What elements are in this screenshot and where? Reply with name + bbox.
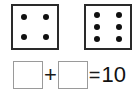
die-pip (43, 34, 49, 40)
worksheet-problem: + = 10 (0, 0, 139, 95)
die-pip (116, 24, 122, 30)
die-pip (116, 12, 122, 18)
die-pip (94, 24, 100, 30)
die-pip (43, 14, 49, 20)
first-die (11, 4, 59, 50)
die-pip (21, 34, 27, 40)
die-pip (94, 36, 100, 42)
dice-row (0, 0, 139, 52)
sum-value: 10 (102, 64, 126, 86)
die-pip (21, 14, 27, 20)
first-answer-box[interactable] (13, 61, 43, 89)
second-answer-box[interactable] (58, 61, 88, 89)
plus-operator: + (43, 64, 58, 86)
second-die (84, 4, 132, 50)
equation-row: + = 10 (0, 55, 139, 95)
equals-operator: = (88, 65, 102, 85)
die-pip (116, 36, 122, 42)
second-die-face (86, 6, 130, 48)
first-die-face (13, 6, 57, 48)
die-pip (94, 12, 100, 18)
